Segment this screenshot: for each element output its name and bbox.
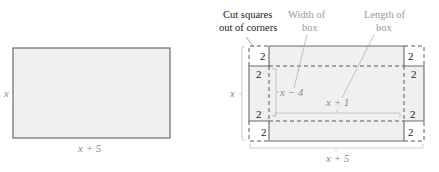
length-callout-line2: box — [376, 22, 393, 33]
flat-sheet-height-label: x — [3, 87, 9, 99]
corner-label-tr-side: 2 — [411, 68, 417, 80]
corner-label-tr-top: 2 — [408, 50, 414, 62]
inner-width-label: x − 4 — [279, 86, 304, 98]
width-callout-line1: Width of — [288, 9, 326, 20]
flat-sheet-width-label: x + 5 — [77, 142, 102, 154]
length-callout-line1: Length of — [364, 9, 406, 20]
corner-label-tl-top: 2 — [260, 50, 266, 62]
inner-length-label: x + 1 — [325, 96, 349, 108]
width-callout-line2: box — [302, 22, 319, 33]
cut-squares-callout-line1: Cut squares — [223, 9, 272, 20]
corner-label-br-side: 2 — [410, 108, 416, 120]
diagram-canvas: x x + 5 2 2 2 2 2 2 2 2 — [0, 0, 439, 172]
corner-label-br-bottom: 2 — [408, 126, 414, 138]
cut-sheet-figure: 2 2 2 2 2 2 2 2 x − 4 x + 1 x x + 5 Cut … — [219, 9, 424, 164]
outer-width-bracket — [250, 144, 423, 151]
outer-height-bracket — [239, 47, 245, 140]
cut-squares-callout-line2: out of corners — [219, 22, 277, 33]
corner-label-bl-bottom: 2 — [261, 126, 267, 138]
flat-sheet-figure: x x + 5 — [3, 48, 170, 154]
outer-width-label: x + 5 — [325, 152, 350, 164]
flat-sheet-rect — [13, 48, 170, 138]
corner-label-bl-side: 2 — [256, 108, 262, 120]
corner-label-tl-side: 2 — [256, 68, 262, 80]
outer-height-label: x — [229, 87, 235, 99]
